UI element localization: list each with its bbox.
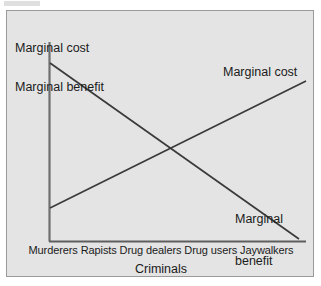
figure-frame: Marginal cost Marginal benefit Marginal … [6,10,314,277]
y-axis-title-line-2: Marginal benefit [15,81,104,94]
y-axis-title-line-1: Marginal cost [15,42,104,55]
y-axis-title: Marginal cost Marginal benefit [15,16,104,120]
marginal-cost-label: Marginal cost [223,66,297,79]
x-axis-category-labels: Murderers Rapists Drug dealers Drug user… [7,244,315,257]
marginal-benefit-label-line-1: Marginal [235,212,283,226]
x-axis-title: Criminals [7,263,315,276]
scan-artifact [4,1,40,6]
